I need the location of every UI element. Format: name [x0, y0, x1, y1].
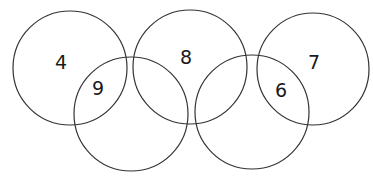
circle-1 [13, 11, 127, 125]
label-7: 7 [308, 53, 320, 72]
circles-layer [0, 0, 373, 178]
circle-4 [195, 55, 309, 169]
label-8: 8 [180, 48, 192, 67]
overlapping-circles-diagram: 4 9 8 7 6 [0, 0, 373, 178]
label-6: 6 [275, 81, 287, 100]
circle-2 [74, 57, 188, 171]
label-4: 4 [55, 53, 67, 72]
label-9: 9 [92, 79, 104, 98]
